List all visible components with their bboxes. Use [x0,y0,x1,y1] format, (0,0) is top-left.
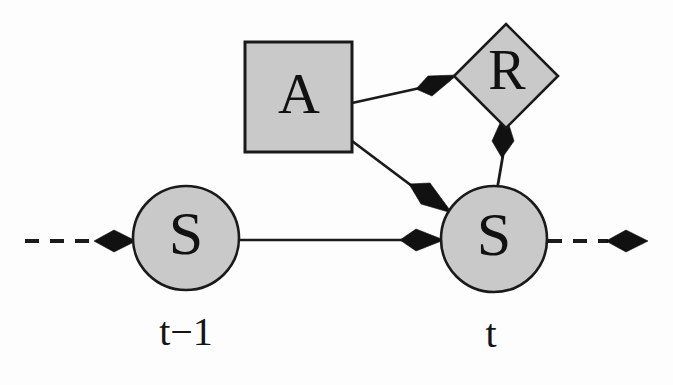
edge-incoming-dashed [25,230,136,252]
arrowhead-incoming-kite [94,230,136,252]
edge-action-to-state-curr [352,141,452,213]
state-prev-node-label: S [169,199,203,267]
arrowhead-outgoing-kite [606,230,648,252]
node-state-prev[interactable]: S [133,186,239,290]
node-action[interactable]: A [245,42,352,152]
edge-action-to-reward [352,75,457,103]
arrowhead-action-reward-kite [416,75,457,96]
reward-node-label: R [488,39,526,101]
state-reward-line [497,155,503,190]
action-node-label: A [278,61,320,126]
node-reward[interactable]: R [454,24,558,128]
mdp-diagram-canvas: A R S S t−1 t [0,0,673,385]
time-label-previous: t−1 [159,309,213,354]
arrowhead-action-state-kite [409,183,452,213]
arrowhead-state-transition-kite [400,229,444,251]
mdp-diagram-svg: A R S S t−1 t [0,0,673,385]
time-label-current: t [485,311,496,356]
state-curr-node-label: S [477,200,511,268]
edge-state-prev-to-state-curr [238,229,444,251]
edge-outgoing-dashed [548,230,648,252]
action-reward-line [352,88,420,103]
node-state-curr[interactable]: S [441,186,547,292]
action-state-line [352,141,412,186]
